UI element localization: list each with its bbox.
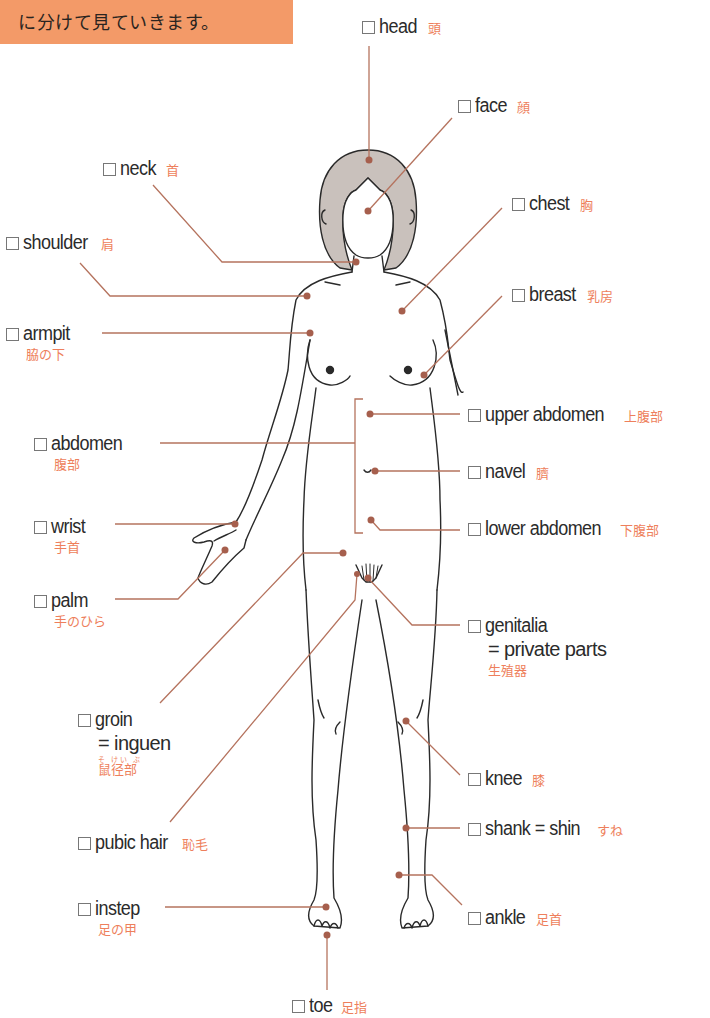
checkbox-shoulder[interactable]: [6, 237, 19, 250]
checkbox-abdomen[interactable]: [34, 438, 47, 451]
label-shank: shank = shin すね: [468, 818, 623, 838]
checkbox-wrist[interactable]: [34, 521, 47, 534]
label-instep: instep 足の甲: [78, 898, 145, 936]
label-chest: chest 胸: [512, 193, 593, 213]
label-face: face 顔: [458, 95, 530, 115]
checkbox-lower-abdomen[interactable]: [468, 523, 481, 536]
label-toe: toe 足指: [292, 995, 367, 1015]
checkbox-armpit[interactable]: [6, 328, 19, 341]
checkbox-shank[interactable]: [468, 823, 481, 836]
label-pubic-hair: pubic hair 恥毛: [78, 832, 208, 852]
checkbox-upper-abdomen[interactable]: [468, 409, 481, 422]
checkbox-genitalia[interactable]: [468, 620, 481, 633]
label-shoulder: shoulder 肩: [6, 232, 114, 252]
checkbox-breast[interactable]: [512, 289, 525, 302]
checkbox-ankle[interactable]: [468, 912, 481, 925]
label-abdomen: abdomen 腹部: [34, 433, 130, 471]
label-ankle: ankle 足首: [468, 907, 562, 927]
body-figure: [0, 0, 710, 1018]
label-neck: neck 首: [103, 158, 179, 178]
label-breast: breast 乳房: [512, 284, 613, 304]
checkbox-navel[interactable]: [468, 466, 481, 479]
label-armpit: armpit 脇の下: [6, 323, 75, 361]
label-upper-abdomen: upper abdomen 上腹部: [468, 404, 663, 424]
checkbox-pubic-hair[interactable]: [78, 837, 91, 850]
marker-dots: [222, 157, 428, 939]
label-navel: navel 臍: [468, 461, 549, 481]
label-wrist: wrist 手首: [34, 516, 89, 554]
checkbox-neck[interactable]: [103, 163, 116, 176]
checkbox-head[interactable]: [362, 21, 375, 34]
label-head: head 頭: [362, 16, 441, 36]
label-knee: knee 膝: [468, 768, 545, 788]
label-lower-abdomen: lower abdomen 下腹部: [468, 518, 659, 538]
label-palm: palm 手のひら: [34, 590, 106, 628]
label-groin: groin = inguen そ けい ぶ 鼠径部: [78, 709, 171, 776]
checkbox-face[interactable]: [458, 100, 471, 113]
body-outline-icon: [193, 150, 463, 928]
checkbox-knee[interactable]: [468, 773, 481, 786]
checkbox-palm[interactable]: [34, 595, 47, 608]
checkbox-instep[interactable]: [78, 903, 91, 916]
checkbox-chest[interactable]: [512, 198, 525, 211]
label-genitalia: genitalia = private parts 生殖器: [468, 615, 606, 677]
checkbox-groin[interactable]: [78, 714, 91, 727]
checkbox-toe[interactable]: [292, 1000, 305, 1013]
